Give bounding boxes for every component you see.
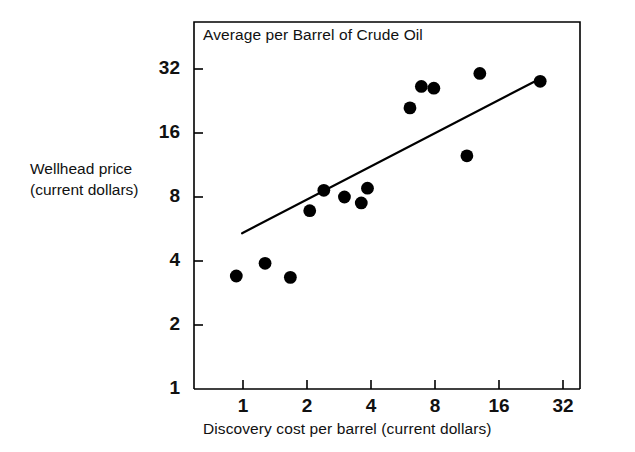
data-point (259, 257, 272, 270)
data-point (355, 197, 368, 210)
y-axis-title-line1: Wellhead price (30, 158, 139, 179)
y-axis-title-line2: (current dollars) (30, 179, 139, 200)
data-point (415, 80, 428, 93)
y-tick-label: 16 (136, 121, 180, 143)
data-point (404, 101, 417, 114)
y-tick-label: 8 (136, 185, 180, 207)
x-tick-label: 32 (538, 395, 588, 417)
x-tick-label: 16 (474, 395, 524, 417)
x-tick-label: 1 (218, 395, 268, 417)
y-tick-label: 32 (136, 57, 180, 79)
y-tick-label: 2 (136, 313, 180, 335)
plot-canvas (0, 0, 635, 452)
y-tick-label: 1 (136, 377, 180, 399)
data-point (361, 182, 374, 195)
data-point (460, 149, 473, 162)
data-point (427, 82, 440, 95)
data-point (473, 67, 486, 80)
x-tick-label: 8 (410, 395, 460, 417)
x-tick-label: 4 (346, 395, 396, 417)
data-point (534, 75, 547, 88)
chart-figure: Average per Barrel of Crude Oil Wellhead… (0, 0, 635, 452)
plot-frame (194, 22, 580, 389)
data-point (303, 204, 316, 217)
y-axis-title: Wellhead price (current dollars) (30, 158, 139, 200)
regression-line (242, 77, 542, 233)
x-axis-title: Discovery cost per barrel (current dolla… (203, 420, 492, 438)
y-tick-label: 4 (136, 249, 180, 271)
chart-annotation: Average per Barrel of Crude Oil (203, 26, 423, 44)
data-point (284, 271, 297, 284)
data-point (338, 191, 351, 204)
x-tick-label: 2 (282, 395, 332, 417)
data-point (317, 184, 330, 197)
data-point (230, 270, 243, 283)
